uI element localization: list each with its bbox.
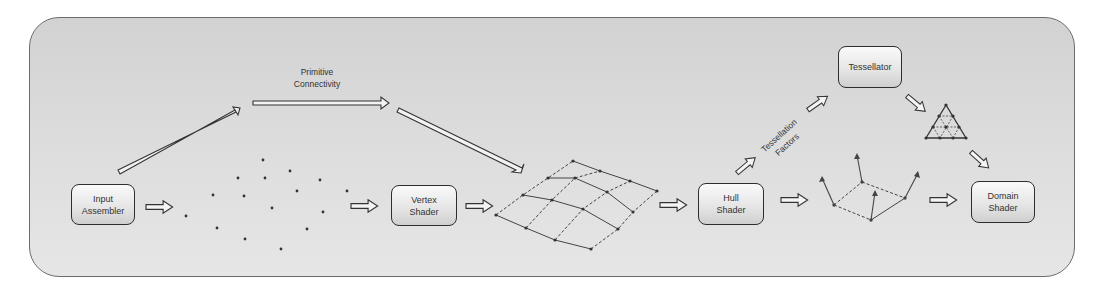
diagram-graphics (0, 0, 1105, 297)
label-line: Primitive (282, 66, 352, 78)
control-mesh (496, 161, 657, 249)
stage-label-line: Shader (409, 206, 438, 218)
arrow-hs-to-patch (781, 194, 808, 206)
arrow-patch-to-ds (930, 194, 957, 206)
stage-hull-shader: Hull Shader (698, 183, 764, 225)
arrow-tess-to-triangle (903, 92, 928, 116)
label-line: Connectivity (282, 78, 352, 90)
label-primitive-connectivity: Primitive Connectivity (282, 66, 352, 90)
stage-label-line: Shader (716, 204, 745, 216)
stage-domain-shader: Domain Shader (971, 181, 1035, 223)
arrow-mesh-to-hs (660, 199, 687, 211)
arrow-triangle-to-ds (967, 148, 992, 172)
patch-with-normals (819, 153, 920, 222)
arrow-vs-to-mesh (466, 200, 493, 212)
stage-label-line: Shader (987, 202, 1018, 214)
stage-label-line: Vertex (409, 194, 438, 206)
stage-input-assembler: Input Assembler (71, 184, 135, 225)
stage-label-line: Domain (987, 190, 1018, 202)
stage-vertex-shader: Vertex Shader (391, 185, 457, 226)
arrow-ia-to-points (146, 201, 173, 213)
primitive-connectivity-arrow (118, 97, 524, 174)
stage-label-line: Hull (716, 192, 745, 204)
stage-label-line: Assembler (82, 205, 125, 217)
arrow-to-tessellator (805, 92, 831, 115)
stage-label-line: Tessellator (848, 61, 891, 73)
stage-tessellator: Tessellator (838, 46, 902, 88)
vertex-point-cloud (185, 159, 349, 251)
stage-label-line: Input (82, 193, 125, 205)
tessellated-triangle (924, 103, 967, 139)
arrow-points-to-vs (351, 200, 378, 212)
